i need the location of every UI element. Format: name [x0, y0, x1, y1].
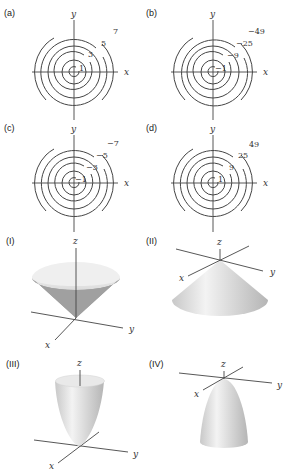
y-axis-label: y: [209, 9, 216, 19]
contour-plot-b: (b) y x −1 −9 −25 −49: [146, 8, 268, 120]
paraboloid-surface: [200, 379, 248, 448]
panel-label-a: (a): [4, 8, 15, 18]
contour-label: 1: [79, 64, 84, 73]
x-axis-label: x: [263, 67, 268, 77]
y-axis-label: y: [132, 449, 139, 459]
panel-label-II: (II): [146, 236, 157, 246]
x-axis-label: x: [179, 273, 184, 283]
figure: (a) y x 1 3 5 7 (b) y x −1 −9 −25 −49: [0, 0, 286, 471]
z-axis-label: z: [216, 237, 222, 247]
contour-plot-c: (c) y x −1 −3 −5 −7: [4, 123, 129, 232]
surface-plot-III: (III) z y x: [6, 358, 139, 471]
contour-label: −25: [236, 39, 253, 48]
panel-label-I: (I): [6, 236, 15, 246]
z-axis-label: z: [220, 359, 226, 369]
contour-arc-outer-tl: [46, 38, 54, 44]
x-axis-label: x: [194, 389, 199, 399]
contour-label: −3: [86, 163, 98, 172]
contour-label: −49: [248, 27, 265, 36]
y-axis-label: y: [128, 324, 135, 334]
contour-label: 5: [101, 39, 106, 48]
y-axis-label: y: [70, 9, 77, 19]
x-axis-label: x: [124, 67, 129, 77]
panel-label-III: (III): [6, 359, 20, 369]
contour-label: 1: [218, 175, 223, 184]
x-axis-label: x: [45, 340, 50, 350]
surface-plot-IV: (IV) z y x: [149, 359, 283, 448]
contour-arc-outer-tl: [185, 38, 193, 44]
paraboloid-surface: [55, 381, 104, 446]
x-axis: [55, 318, 76, 340]
surface-plot-II: (II) z y x: [146, 236, 276, 316]
y-axis-label: y: [70, 124, 77, 134]
y-axis-label: y: [209, 124, 216, 134]
y-axis-label: y: [276, 380, 283, 390]
contour-arc-outer-tl: [185, 149, 193, 155]
panel-label-b: (b): [146, 8, 157, 18]
contour-label: 25: [238, 151, 248, 160]
contour-label: −1: [215, 64, 227, 73]
surface-plot-I: (I) z y x: [6, 236, 135, 350]
contour-arc-outer-tl: [46, 149, 54, 155]
contour-label: −7: [107, 139, 119, 148]
contour-label: −5: [96, 151, 108, 160]
z-axis-label: z: [76, 358, 82, 368]
contour-label: 3: [88, 50, 93, 59]
contour-label: 9: [229, 163, 234, 172]
panel-label-c: (c): [4, 123, 15, 133]
y-axis-label: y: [269, 267, 276, 277]
x-axis-label: x: [49, 461, 54, 471]
contour-plot-d: (d) y x 1 9 25 49: [146, 123, 268, 232]
contour-label: 49: [249, 140, 259, 149]
contour-label: −1: [75, 175, 87, 184]
z-axis-label: z: [72, 236, 78, 246]
x-axis-label: x: [124, 178, 129, 188]
contour-plot-a: (a) y x 1 3 5 7: [4, 8, 129, 120]
panel-label-d: (d): [146, 123, 157, 133]
contour-label: 7: [113, 27, 118, 36]
x-axis-label: x: [263, 178, 268, 188]
contour-label: −9: [227, 51, 239, 60]
panel-label-IV: (IV): [149, 359, 164, 369]
